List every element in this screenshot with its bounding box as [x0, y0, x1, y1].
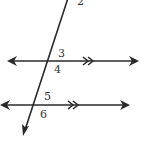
angle-label-3: 3	[58, 47, 65, 60]
angle-label-4: 4	[54, 63, 61, 76]
upper-parallel-line	[7, 56, 139, 66]
arrowhead-down-icon	[22, 124, 29, 136]
angle-label-6: 6	[40, 108, 47, 121]
angle-label-5: 5	[44, 90, 51, 103]
lower-parallel-line	[0, 100, 130, 110]
angle-label-2: 2	[77, 0, 84, 8]
parallel-lines-diagram: 2 3 4 5 6	[0, 0, 147, 142]
